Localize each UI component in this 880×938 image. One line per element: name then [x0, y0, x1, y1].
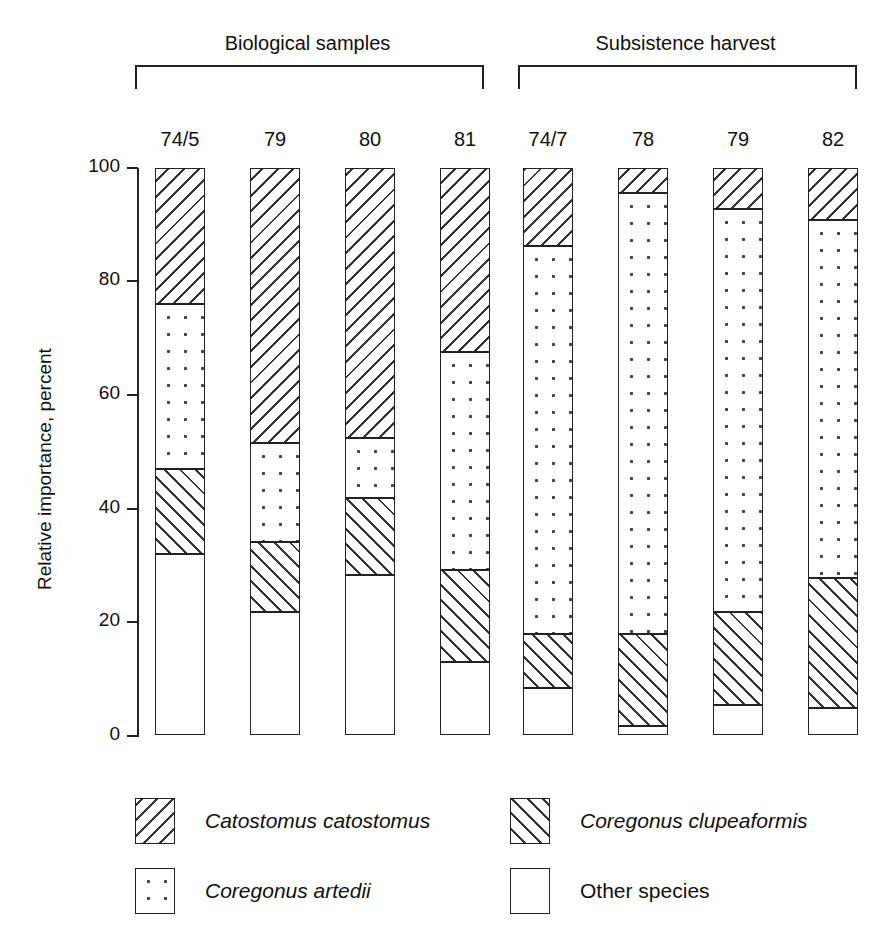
- bar-category-label: 74/7: [498, 128, 598, 151]
- bar-segment: [250, 612, 300, 735]
- bar-segment: [250, 168, 300, 443]
- legend-item[interactable]: Coregonus clupeaformis: [510, 798, 808, 844]
- bar: [440, 168, 490, 735]
- bar-segment: [713, 612, 763, 705]
- bar: [523, 168, 573, 735]
- bar-segment: [250, 542, 300, 612]
- bar-segment: [155, 554, 205, 735]
- bar-segment: [250, 443, 300, 542]
- bar-segment: [808, 578, 858, 708]
- bar-category-label: 79: [225, 128, 325, 151]
- bar-category-label: 79: [688, 128, 788, 151]
- bar-segment: [440, 352, 490, 570]
- bar: [250, 168, 300, 735]
- legend-swatch-fslash-icon: [135, 798, 175, 844]
- bar-segment: [345, 168, 395, 438]
- bar: [618, 168, 668, 735]
- bar-segment: [345, 438, 395, 498]
- bar-segment: [523, 246, 573, 634]
- legend-label: Catostomus catostomus: [205, 809, 430, 833]
- bar-segment: [618, 634, 668, 726]
- chart-legend: Catostomus catostomusCoregonus clupeafor…: [135, 798, 855, 923]
- bar-category-label: 74/5: [130, 128, 230, 151]
- legend-label: Coregonus artedii: [205, 879, 371, 903]
- legend-swatch-dots-icon: [135, 868, 175, 914]
- bar: [713, 168, 763, 735]
- bar-segment: [523, 688, 573, 735]
- bar-segment: [345, 575, 395, 735]
- bar-segment: [618, 726, 668, 735]
- bar-segment: [523, 168, 573, 246]
- bar-segment: [618, 193, 668, 634]
- bar-segment: [713, 168, 763, 209]
- bar-segment: [808, 168, 858, 220]
- legend-label: Coregonus clupeaformis: [580, 809, 808, 833]
- bar-category-label: 78: [593, 128, 693, 151]
- bar: [808, 168, 858, 735]
- legend-swatch-bslash-icon: [510, 798, 550, 844]
- bar-segment: [440, 570, 490, 662]
- bar: [345, 168, 395, 735]
- legend-label: Other species: [580, 879, 710, 903]
- bar: [155, 168, 205, 735]
- bar-segment: [155, 469, 205, 554]
- bar-segment: [523, 634, 573, 688]
- bar-segment: [808, 220, 858, 578]
- bar-category-label: 82: [783, 128, 880, 151]
- bar-segment: [155, 168, 205, 304]
- legend-item[interactable]: Coregonus artedii: [135, 868, 371, 914]
- bar-segment: [618, 168, 668, 193]
- bar-segment: [713, 705, 763, 735]
- stacked-bar-chart: Biological samples Subsistence harvest 1…: [0, 0, 880, 938]
- bar-category-label: 80: [320, 128, 420, 151]
- bar-segment: [440, 168, 490, 352]
- legend-item[interactable]: Catostomus catostomus: [135, 798, 430, 844]
- bar-segment: [808, 708, 858, 735]
- bar-segment: [713, 209, 763, 612]
- bar-segment: [345, 498, 395, 575]
- bar-segment: [440, 662, 490, 735]
- legend-item[interactable]: Other species: [510, 868, 710, 914]
- bar-segment: [155, 304, 205, 468]
- legend-swatch-blank-icon: [510, 868, 550, 914]
